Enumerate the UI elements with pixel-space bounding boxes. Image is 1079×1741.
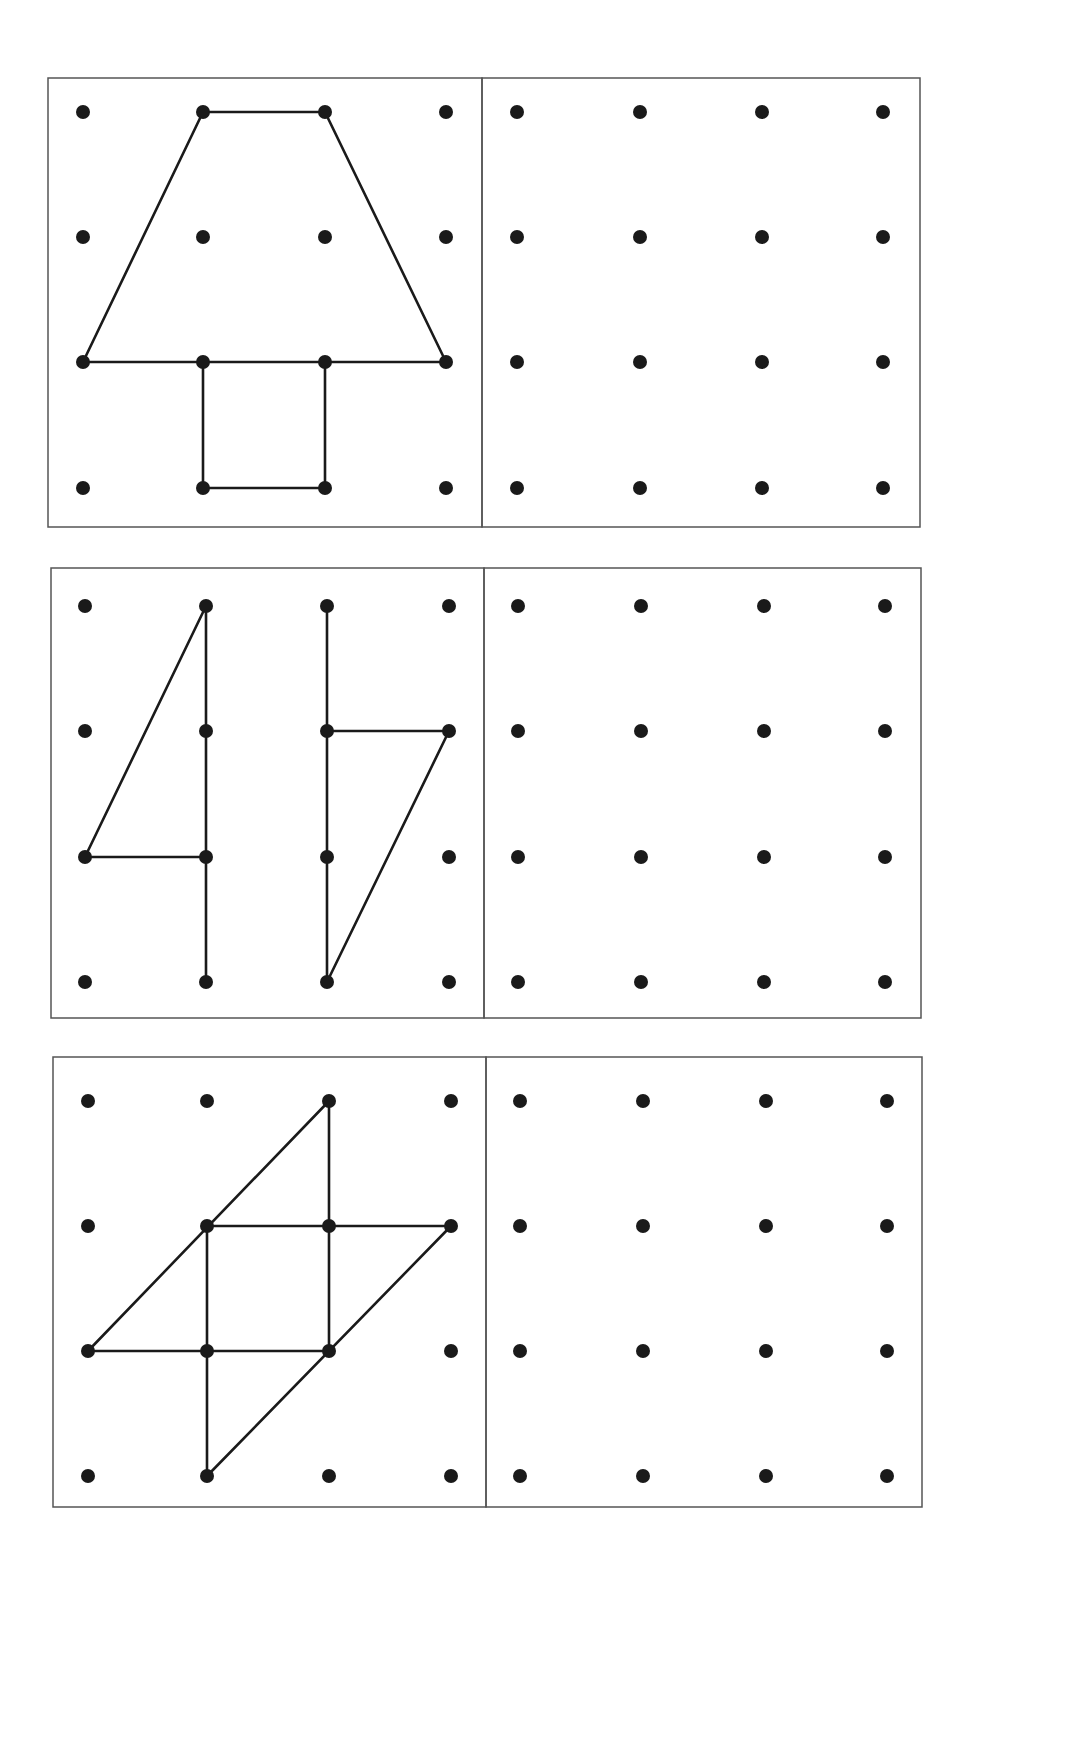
grid-dot[interactable]: [513, 1219, 527, 1233]
grid-dot: [442, 850, 456, 864]
grid-dot[interactable]: [759, 1094, 773, 1108]
grid-dot[interactable]: [880, 1344, 894, 1358]
grid-dot: [322, 1344, 336, 1358]
grid-dot[interactable]: [633, 230, 647, 244]
grid-dot[interactable]: [880, 1094, 894, 1108]
answer-panel[interactable]: [482, 78, 920, 527]
grid-dot[interactable]: [755, 230, 769, 244]
grid-dot[interactable]: [634, 975, 648, 989]
grid-dot: [444, 1469, 458, 1483]
grid-dot[interactable]: [636, 1094, 650, 1108]
answer-dot-grid: [513, 1094, 894, 1483]
grid-dot[interactable]: [755, 481, 769, 495]
grid-dot: [78, 724, 92, 738]
grid-dot: [439, 230, 453, 244]
two-flags-figure: [85, 606, 449, 982]
grid-dot: [196, 105, 210, 119]
grid-dot[interactable]: [633, 481, 647, 495]
grid-dot: [200, 1469, 214, 1483]
grid-dot: [78, 850, 92, 864]
grid-dot[interactable]: [636, 1469, 650, 1483]
grid-dot: [199, 599, 213, 613]
grid-dot[interactable]: [510, 105, 524, 119]
grid-dot[interactable]: [513, 1344, 527, 1358]
grid-dot[interactable]: [880, 1469, 894, 1483]
answer-dot-grid: [510, 105, 890, 495]
worksheet: [0, 0, 1079, 1741]
grid-dot[interactable]: [757, 724, 771, 738]
grid-dot[interactable]: [511, 850, 525, 864]
grid-dot[interactable]: [511, 599, 525, 613]
grid-dot: [200, 1219, 214, 1233]
grid-dot[interactable]: [510, 355, 524, 369]
grid-dot[interactable]: [513, 1469, 527, 1483]
answer-dot-grid: [511, 599, 892, 989]
grid-dot[interactable]: [633, 105, 647, 119]
grid-dot[interactable]: [510, 230, 524, 244]
grid-dot: [76, 230, 90, 244]
grid-dot[interactable]: [876, 105, 890, 119]
grid-dot: [444, 1094, 458, 1108]
grid-dot[interactable]: [878, 724, 892, 738]
grid-dot[interactable]: [755, 355, 769, 369]
grid-dot[interactable]: [634, 850, 648, 864]
figure-segment: [327, 731, 449, 982]
grid-dot: [76, 355, 90, 369]
grid-dot: [318, 230, 332, 244]
grid-dot: [444, 1219, 458, 1233]
grid-dot[interactable]: [636, 1219, 650, 1233]
figure-segment: [83, 112, 203, 362]
grid-dot[interactable]: [757, 975, 771, 989]
grid-dot: [318, 355, 332, 369]
exercise-row-1: [48, 78, 920, 527]
exercise-row-2: [51, 568, 921, 1018]
trapezoid-with-square-figure: [83, 112, 446, 488]
grid-dot: [442, 724, 456, 738]
grid-dot[interactable]: [513, 1094, 527, 1108]
grid-dot[interactable]: [633, 355, 647, 369]
grid-dot[interactable]: [759, 1344, 773, 1358]
grid-dot[interactable]: [511, 975, 525, 989]
grid-dot: [439, 481, 453, 495]
grid-dot[interactable]: [876, 230, 890, 244]
grid-dot: [320, 850, 334, 864]
grid-dot[interactable]: [634, 599, 648, 613]
grid-dot: [318, 105, 332, 119]
grid-dot: [322, 1094, 336, 1108]
model-dot-grid: [81, 1094, 458, 1483]
model-panel: [53, 1057, 486, 1507]
grid-dot: [442, 599, 456, 613]
grid-dot[interactable]: [759, 1219, 773, 1233]
answer-panel[interactable]: [484, 568, 921, 1018]
grid-dot[interactable]: [634, 724, 648, 738]
grid-dot: [81, 1219, 95, 1233]
grid-dot[interactable]: [759, 1469, 773, 1483]
grid-dot[interactable]: [511, 724, 525, 738]
grid-dot: [318, 481, 332, 495]
grid-dot[interactable]: [878, 975, 892, 989]
grid-dot: [78, 975, 92, 989]
answer-panel[interactable]: [486, 1057, 922, 1507]
grid-dot[interactable]: [510, 481, 524, 495]
grid-dot: [322, 1469, 336, 1483]
grid-dot: [439, 105, 453, 119]
grid-dot[interactable]: [757, 599, 771, 613]
grid-dot: [199, 724, 213, 738]
grid-dot: [81, 1344, 95, 1358]
grid-dot: [320, 724, 334, 738]
grid-dot[interactable]: [755, 105, 769, 119]
grid-dot[interactable]: [880, 1219, 894, 1233]
grid-dot: [81, 1094, 95, 1108]
grid-dot: [322, 1219, 336, 1233]
grid-dot: [196, 481, 210, 495]
pinwheel-parallelograms-figure: [88, 1101, 451, 1476]
grid-dot[interactable]: [876, 481, 890, 495]
grid-dot[interactable]: [878, 850, 892, 864]
grid-dot: [199, 850, 213, 864]
grid-dot[interactable]: [757, 850, 771, 864]
grid-dot[interactable]: [876, 355, 890, 369]
grid-dot: [439, 355, 453, 369]
figure-segment: [325, 112, 446, 362]
grid-dot[interactable]: [878, 599, 892, 613]
grid-dot[interactable]: [636, 1344, 650, 1358]
